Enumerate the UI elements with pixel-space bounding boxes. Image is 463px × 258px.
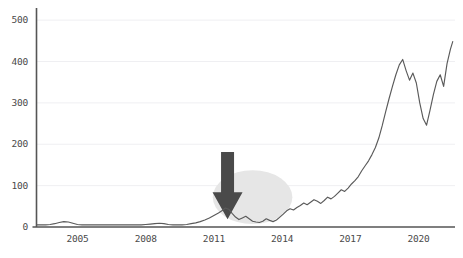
x-tick-2005: 2005 (55, 233, 99, 244)
x-tick-2014: 2014 (260, 233, 304, 244)
x-tick-2011: 2011 (192, 233, 236, 244)
y-tick-300: 300 (2, 97, 28, 108)
x-tick-2008: 2008 (124, 233, 168, 244)
y-tick-0: 0 (2, 221, 28, 232)
x-tick-2020: 2020 (397, 233, 441, 244)
chart-plot-area (0, 0, 463, 258)
y-tick-100: 100 (2, 180, 28, 191)
y-tick-400: 400 (2, 56, 28, 67)
annotation-layer (213, 152, 293, 224)
x-tick-2017: 2017 (328, 233, 372, 244)
gridlines (37, 20, 456, 185)
line-chart: 0100200300400500 20052008201120142017202… (0, 0, 463, 258)
y-tick-500: 500 (2, 14, 28, 25)
y-tick-200: 200 (2, 138, 28, 149)
